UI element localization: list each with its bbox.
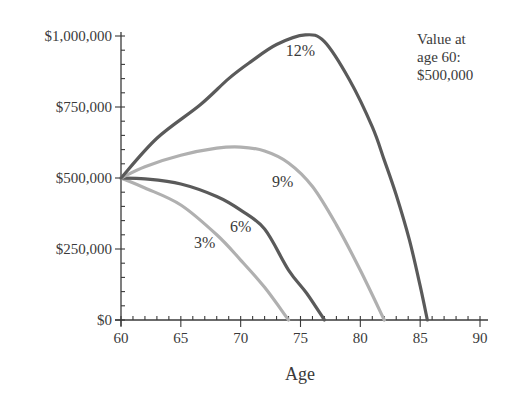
x-tick-label: 75 — [293, 330, 308, 346]
x-axis-title: Age — [285, 364, 315, 384]
y-tick-label: $500,000 — [56, 170, 112, 186]
annotation-line-3: $500,000 — [417, 66, 507, 84]
x-axis: 60657075808590 — [114, 316, 489, 346]
y-tick-label: $250,000 — [56, 241, 112, 257]
series-line-9pct — [121, 147, 384, 320]
x-tick-label: 90 — [473, 330, 488, 346]
y-axis: $0$250,000$500,000$750,000$1,000,000 — [45, 28, 126, 328]
series-label-9pct: 9% — [272, 173, 293, 190]
series-label-3pct: 3% — [194, 234, 215, 251]
y-tick-label: $1,000,000 — [45, 28, 113, 44]
series-label-12pct: 12% — [286, 42, 315, 59]
y-tick-label: $0 — [97, 312, 112, 328]
x-tick-label: 80 — [353, 330, 368, 346]
x-tick-label: 70 — [233, 330, 248, 346]
series-line-6pct — [121, 178, 324, 320]
x-tick-label: 65 — [173, 330, 188, 346]
x-tick-label: 85 — [413, 330, 428, 346]
annotation-line-1: Value at — [417, 30, 507, 48]
series-label-6pct: 6% — [230, 218, 251, 235]
x-tick-label: 60 — [114, 330, 129, 346]
annotation-line-2: age 60: — [417, 48, 507, 66]
y-tick-label: $750,000 — [56, 99, 112, 115]
start-value-annotation: Value at age 60: $500,000 — [417, 30, 507, 84]
